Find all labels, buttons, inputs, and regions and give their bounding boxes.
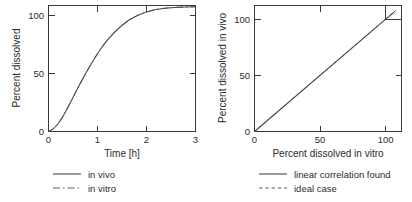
left-legend-item-in-vitro: in vitro bbox=[53, 181, 116, 195]
left-yticklabel-0: 0 bbox=[39, 126, 44, 137]
left-legend-label-in-vivo: in vivo bbox=[88, 169, 115, 180]
left-xticklabel-3: 3 bbox=[193, 134, 198, 145]
right-legend-label-ideal-case: ideal case bbox=[294, 183, 337, 194]
left-yticklabel-100: 100 bbox=[28, 10, 44, 21]
right-xticklabel-50: 50 bbox=[315, 134, 326, 145]
right-legend: linear correlation found ideal case bbox=[259, 167, 391, 195]
right-xticklabel-0: 0 bbox=[252, 134, 257, 145]
right-yaxis-label: Percent dissolved in vivo bbox=[217, 13, 228, 123]
legend-line-dashdot-icon bbox=[53, 183, 81, 193]
figure-root: 0 50 100 0 1 2 3 Time [h] Percent dissol… bbox=[0, 0, 412, 202]
chart-panel-ivivc-correlation: 0 50 100 0 50 100 Percent dissolved in v… bbox=[206, 0, 412, 202]
legend-line-solid-icon bbox=[53, 169, 81, 179]
right-xticklabel-100: 100 bbox=[378, 134, 394, 145]
left-xticklabel-1: 1 bbox=[95, 134, 100, 145]
left-plot-svg: 0 50 100 0 1 2 3 Time [h] Percent dissol… bbox=[0, 0, 206, 160]
left-legend-label-in-vitro: in vitro bbox=[88, 183, 116, 194]
left-legend-item-in-vivo: in vivo bbox=[53, 167, 116, 181]
left-legend: in vivo in vitro bbox=[53, 167, 116, 195]
left-xaxis-label: Time [h] bbox=[104, 148, 140, 159]
right-legend-label-linear-correlation: linear correlation found bbox=[294, 169, 391, 180]
right-legend-item-linear-correlation: linear correlation found bbox=[259, 167, 391, 181]
legend-line-dashed-icon bbox=[259, 183, 287, 193]
left-xticklabel-0: 0 bbox=[46, 134, 51, 145]
right-plot-svg: 0 50 100 0 50 100 Percent dissolved in v… bbox=[206, 0, 412, 160]
right-xaxis-label: Percent dissolved in vitro bbox=[272, 148, 384, 159]
right-yticklabel-100: 100 bbox=[234, 14, 250, 25]
right-yticklabel-50: 50 bbox=[239, 70, 250, 81]
left-xticklabel-2: 2 bbox=[144, 134, 149, 145]
right-legend-item-ideal-case: ideal case bbox=[259, 181, 391, 195]
legend-line-solid-icon bbox=[259, 169, 287, 179]
left-yticklabel-50: 50 bbox=[33, 68, 44, 79]
chart-panel-dissolution-vs-time: 0 50 100 0 1 2 3 Time [h] Percent dissol… bbox=[0, 0, 206, 202]
right-yticklabel-0: 0 bbox=[245, 126, 250, 137]
left-yaxis-label: Percent dissolved bbox=[11, 29, 22, 108]
